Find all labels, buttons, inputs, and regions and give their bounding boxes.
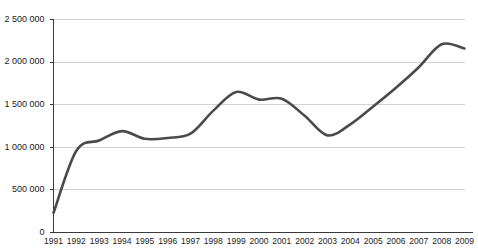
x-axis-tick-label: 2008 <box>432 236 451 246</box>
x-axis-tick-label: 1995 <box>135 236 154 246</box>
x-axis-tick-label: 1997 <box>181 236 200 246</box>
x-axis-tick-label: 2003 <box>318 236 337 246</box>
x-axis-tick-label: 1996 <box>158 236 177 246</box>
y-axis-tick-label: 1 000 000 <box>4 142 44 152</box>
y-axis-tick-label: 2 500 000 <box>4 14 44 24</box>
y-axis-tick-label: 500 000 <box>12 184 45 194</box>
x-axis-tick-labels: 1991199219931994199519961997199819992000… <box>44 236 474 246</box>
x-axis-tick-label: 2005 <box>364 236 383 246</box>
x-axis-tick-label: 1992 <box>67 236 86 246</box>
axes-group <box>54 19 473 233</box>
x-axis-tick-label: 1993 <box>90 236 109 246</box>
chart-canvas: 0500 0001 000 0001 500 0002 000 0002 500… <box>0 0 478 252</box>
data-series-group <box>54 43 465 213</box>
x-axis-tick-label: 1998 <box>204 236 223 246</box>
y-axis-tick-label: 1 500 000 <box>4 99 44 109</box>
x-axis-tick-label: 1991 <box>44 236 63 246</box>
x-axis-tick-label: 2006 <box>387 236 406 246</box>
x-axis-tick-label: 2001 <box>272 236 291 246</box>
series-line-1 <box>54 43 465 213</box>
y-axis-tick-label: 2 000 000 <box>4 56 44 66</box>
line-chart: 0500 0001 000 0001 500 0002 000 0002 500… <box>0 0 478 252</box>
y-axis-tick-labels: 0500 0001 000 0001 500 0002 000 0002 500… <box>4 14 44 237</box>
gridlines-group <box>54 20 465 190</box>
x-axis-tick-label: 1994 <box>113 236 132 246</box>
x-axis-tick-label: 2004 <box>341 236 360 246</box>
x-axis-tick-label: 2009 <box>455 236 474 246</box>
x-axis-tick-label: 2002 <box>295 236 314 246</box>
x-axis-tick-label: 1999 <box>227 236 246 246</box>
x-axis-tick-label: 2007 <box>409 236 428 246</box>
x-axis-tick-label: 2000 <box>250 236 269 246</box>
